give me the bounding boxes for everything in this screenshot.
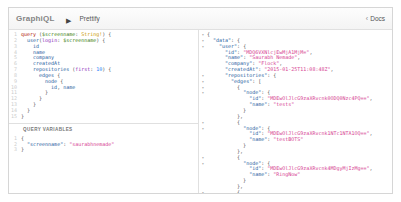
- token-fd: name: [63, 84, 75, 90]
- token-p: {: [207, 189, 240, 193]
- result-pane: ▾{▾ "data": {▾ "user": { "id": "MDQ6VXNl…: [199, 30, 392, 193]
- chevron-left-icon: ‹: [366, 15, 368, 22]
- token-p: ,: [297, 54, 300, 60]
- token-p: }: [21, 113, 24, 119]
- token-p: ,: [370, 95, 373, 101]
- token-k: "name": [249, 101, 267, 107]
- token-p: }: [21, 146, 24, 152]
- code-text: }: [21, 147, 24, 153]
- line-number: 3: [9, 147, 21, 153]
- docs-button[interactable]: ‹ Docs: [366, 15, 385, 22]
- token-p: ) {: [102, 66, 111, 72]
- code-text: }: [21, 114, 24, 120]
- docs-label: Docs: [370, 15, 385, 22]
- token-p: ,: [370, 130, 373, 136]
- graphiql-window: GraphiQL ▶ Prettify ‹ Docs 1query ($scre…: [8, 7, 393, 194]
- fold-arrow-icon[interactable]: ▾: [199, 190, 207, 193]
- variables-title[interactable]: Query Variables: [9, 124, 198, 134]
- token-p: ,: [309, 49, 312, 55]
- token-p: : {: [267, 72, 276, 78]
- code-line: ▾ {: [199, 190, 392, 193]
- code-line[interactable]: 15}: [9, 114, 198, 120]
- query-editor[interactable]: 1query ($screenname: String!) {2 user(lo…: [9, 30, 198, 120]
- editor-panes: 1query ($screenname: String!) {2 user(lo…: [9, 30, 392, 193]
- execute-button[interactable]: ▶: [66, 11, 71, 26]
- query-pane: 1query ($screenname: String!) {2 user(lo…: [9, 30, 199, 193]
- token-s: "tests": [273, 101, 294, 107]
- graphiql-logo: GraphiQL: [16, 14, 55, 23]
- token-p: ,: [370, 165, 373, 171]
- token-ar: first: [75, 66, 90, 72]
- token-s: "testBOTS": [273, 136, 303, 142]
- line-number: 15: [9, 114, 21, 120]
- code-text: {: [207, 190, 240, 193]
- prettify-button[interactable]: Prettify: [80, 15, 100, 22]
- token-p: ,: [330, 66, 333, 72]
- token-p: : [: [252, 78, 261, 84]
- variables-editor[interactable]: 1{2 "screenname": "saurabhnemade"3}: [9, 134, 198, 154]
- token-s: "RingNow": [273, 171, 300, 177]
- result-viewer: ▾{▾ "data": {▾ "user": { "id": "MDQ6VXNl…: [199, 30, 392, 193]
- play-icon: ▶: [66, 17, 71, 24]
- token-s: "saurabhnemade": [69, 141, 114, 147]
- toolbar: GraphiQL ▶ Prettify ‹ Docs: [9, 8, 392, 30]
- token-k: "screenname": [27, 141, 63, 147]
- token-k: "name": [249, 171, 267, 177]
- variables-section: Query Variables 1{2 "screenname": "saura…: [9, 123, 198, 154]
- code-text: "screenname": "saurabhnemade": [21, 142, 114, 148]
- code-line[interactable]: 3}: [9, 147, 198, 153]
- token-ar: login: [42, 37, 57, 43]
- token-p: ) {: [96, 37, 105, 43]
- token-vr: $screenname: [63, 37, 96, 43]
- token-k: "name": [249, 136, 267, 142]
